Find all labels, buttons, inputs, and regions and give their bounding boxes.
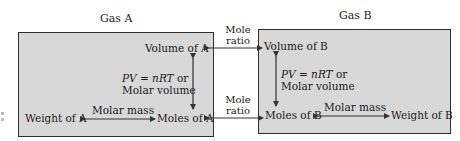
arrows: [0, 0, 460, 141]
